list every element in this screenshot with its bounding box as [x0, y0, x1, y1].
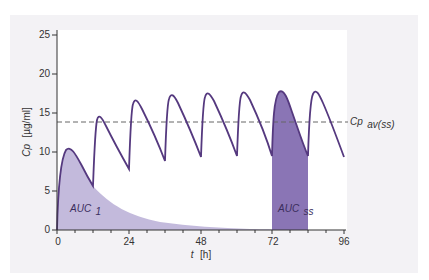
svg-text:5: 5 [44, 185, 50, 196]
svg-text:15: 15 [39, 107, 51, 118]
svg-text:25: 25 [39, 29, 51, 40]
chart-svg: 0 5 10 15 20 25 0 24 48 72 96 t [h] [0, 0, 429, 280]
x-tick-labels: 0 24 48 72 96 [55, 236, 350, 247]
svg-text:72: 72 [267, 236, 279, 247]
svg-text:20: 20 [39, 68, 51, 79]
svg-text:96: 96 [338, 236, 350, 247]
y-axis-label: Cp [µg/ml] [16, 107, 33, 157]
svg-text:10: 10 [39, 146, 51, 157]
svg-text:0: 0 [44, 224, 50, 235]
cpav-label: Cp av(ss) [350, 111, 394, 130]
svg-text:24: 24 [123, 236, 135, 247]
y-ticks [52, 35, 57, 230]
x-ticks [57, 230, 344, 234]
svg-text:0: 0 [55, 236, 61, 247]
y-tick-labels: 0 5 10 15 20 25 [39, 29, 51, 235]
